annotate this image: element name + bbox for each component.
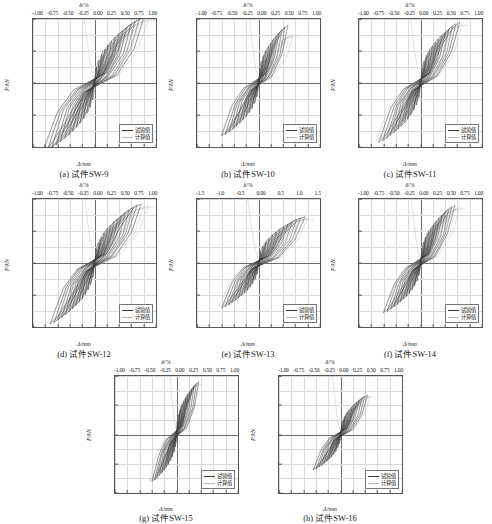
x-axis-tickmark xyxy=(70,324,71,327)
legend-item-experimental: 试验值 xyxy=(122,127,150,134)
legend-item-calculated: 计算值 xyxy=(286,314,314,321)
x-axis-title: Δ/mm xyxy=(166,341,330,347)
y-axis-tickmark xyxy=(197,199,200,200)
x-axis-tickmark xyxy=(143,324,144,327)
gridline-vertical xyxy=(320,19,321,147)
x-axis-tickmark xyxy=(396,144,397,147)
y-axis-title: P/kN xyxy=(330,79,336,91)
top-axis-tick: -1.00 xyxy=(358,10,369,17)
y-axis-tickmark xyxy=(359,263,362,264)
panel-caption: (g) 试件SW-15 xyxy=(84,513,248,524)
top-axis-tick: -1.0 xyxy=(216,190,224,197)
gridline-horizontal xyxy=(115,493,238,494)
top-axis-tick: 0.50 xyxy=(367,367,376,374)
legend: 试验值计算值 xyxy=(201,470,236,489)
x-axis-title: Δ/mm xyxy=(166,161,330,167)
chart-panel-sw-9: δ/%-1.00-0.75-0.50-0.250.000.250.500.751… xyxy=(2,0,166,180)
top-axis-ticks: -1.00-0.75-0.50-0.250.000.250.500.751.00 xyxy=(114,367,239,375)
top-axis-tick: -0.75 xyxy=(373,10,384,17)
x-axis-tickmark xyxy=(389,490,390,493)
x-axis-tickmark xyxy=(127,490,128,493)
y-axis-title: P/kN xyxy=(4,79,10,91)
x-axis-tickmark xyxy=(209,144,210,147)
top-axis-tick: -0.50 xyxy=(145,367,156,374)
top-axis-tick: 0.25 xyxy=(433,190,442,197)
legend-label: 试验值 xyxy=(135,307,150,314)
top-axis-tick: 1.00 xyxy=(230,367,239,374)
legend-swatch-experimental-icon xyxy=(448,130,459,131)
gridline-horizontal xyxy=(197,327,320,328)
x-axis-tickmark xyxy=(106,144,107,147)
gridline-horizontal xyxy=(359,327,482,328)
top-axis-tick: -1.00 xyxy=(358,190,369,197)
x-axis-tickmark xyxy=(359,324,360,327)
chart-panel-sw-12: δ/%-1.00-0.75-0.50-0.250.000.250.500.751… xyxy=(2,180,166,360)
top-axis-tick: 0.50 xyxy=(447,10,456,17)
legend-label: 试验值 xyxy=(381,473,396,480)
y-axis-title: P/kN xyxy=(168,259,174,271)
series-experimental xyxy=(222,217,306,308)
gridline-vertical xyxy=(320,199,321,327)
x-axis-tickmark xyxy=(307,144,308,147)
x-axis-tickmark xyxy=(371,324,372,327)
x-axis-tickmark xyxy=(119,324,120,327)
top-axis-tick: -1.00 xyxy=(32,10,43,17)
x-axis-tickmark xyxy=(33,144,34,147)
x-axis-tickmark xyxy=(469,324,470,327)
legend-item-experimental: 试验值 xyxy=(448,127,476,134)
top-axis-tick: 0.00 xyxy=(93,10,102,17)
top-axis-title: δ/% xyxy=(2,2,166,9)
y-axis-tickmark xyxy=(279,376,282,377)
x-axis-tickmark xyxy=(209,324,210,327)
x-axis-tickmark xyxy=(115,490,116,493)
x-axis-tickmark xyxy=(143,144,144,147)
y-axis-tickmark xyxy=(197,51,200,52)
top-axis-tick: -0.25 xyxy=(78,190,89,197)
y-axis-tickmark xyxy=(197,327,200,328)
x-axis-tickmark xyxy=(201,490,202,493)
panel-caption: (a) 试件SW-9 xyxy=(2,169,166,180)
top-axis-tick: 0.75 xyxy=(298,10,307,17)
x-axis-tickmark xyxy=(383,324,384,327)
x-axis-tickmark xyxy=(279,490,280,493)
x-axis-tickmark xyxy=(246,144,247,147)
y-axis-tickmark xyxy=(115,405,118,406)
plot-area: -200-1000100200-25-20-15-10-50510152025试… xyxy=(196,18,321,148)
x-axis-title: Δ/mm xyxy=(328,161,492,167)
top-axis-ticks: -1.00-0.75-0.50-0.250.000.250.500.751.00 xyxy=(32,10,157,18)
gridline-horizontal xyxy=(197,147,320,148)
top-axis-tick: -0.25 xyxy=(242,10,253,17)
legend-swatch-experimental-icon xyxy=(368,476,379,477)
y-axis-tickmark xyxy=(279,405,282,406)
y-axis-tickmark xyxy=(33,327,36,328)
x-axis-tickmark xyxy=(57,324,58,327)
top-axis-tick: -0.75 xyxy=(211,10,222,17)
legend-item-experimental: 试验值 xyxy=(368,473,396,480)
y-axis-tickmark xyxy=(197,295,200,296)
top-axis-tick: 0.50 xyxy=(121,10,130,17)
x-axis-tickmark xyxy=(303,490,304,493)
top-axis-tick: 0.5 xyxy=(278,190,284,197)
top-axis-tick: 0.75 xyxy=(216,367,225,374)
top-axis-title: δ/% xyxy=(166,182,330,189)
legend-item-calculated: 计算值 xyxy=(122,314,150,321)
legend-swatch-calculated-icon xyxy=(122,137,133,138)
legend-swatch-experimental-icon xyxy=(122,130,133,131)
plot-area: -200-1000100200-25-20-15-10-50510152025试… xyxy=(114,375,239,494)
x-axis-tickmark xyxy=(383,144,384,147)
y-axis-tickmark xyxy=(279,463,282,464)
x-axis-tickmark xyxy=(188,490,189,493)
x-axis-tickmark xyxy=(176,490,177,493)
legend-label: 试验值 xyxy=(461,127,476,134)
top-axis-tick: -0.50 xyxy=(63,10,74,17)
legend-label: 计算值 xyxy=(461,134,476,141)
series-calculated xyxy=(384,199,465,311)
x-axis-tickmark xyxy=(365,490,366,493)
series-calculated xyxy=(376,19,467,141)
x-axis-tickmark xyxy=(291,490,292,493)
top-axis-tick: -0.25 xyxy=(404,10,415,17)
x-axis-tickmark xyxy=(94,324,95,327)
top-axis-tick: -1.00 xyxy=(114,367,125,374)
top-axis-tick: 1.00 xyxy=(148,190,157,197)
top-axis-tick: 0.25 xyxy=(353,367,362,374)
